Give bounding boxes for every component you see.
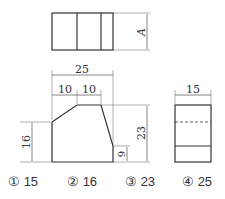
option-4[interactable]: ④ 25 xyxy=(182,174,212,189)
dim-seg-1: 10 xyxy=(58,83,72,96)
option-num: ③ xyxy=(125,174,137,189)
orthographic-drawing: 25 10 10 15 16 23 9 A xyxy=(0,0,225,199)
option-value: 25 xyxy=(198,174,212,189)
dim-right-height: 9 xyxy=(116,151,127,157)
option-value: 15 xyxy=(24,174,38,189)
option-1[interactable]: ① 15 xyxy=(8,174,38,189)
dim-width: 25 xyxy=(75,63,89,76)
option-num: ① xyxy=(8,174,20,189)
dim-side-width: 15 xyxy=(186,83,200,96)
dim-total-height: 23 xyxy=(135,126,148,140)
dim-seg-2: 10 xyxy=(82,83,96,96)
dim-label-a: A xyxy=(135,28,148,37)
option-num: ② xyxy=(67,174,79,189)
option-value: 23 xyxy=(141,174,155,189)
option-value: 16 xyxy=(83,174,97,189)
option-2[interactable]: ② 16 xyxy=(67,174,97,189)
option-3[interactable]: ③ 23 xyxy=(125,174,155,189)
dim-left-height: 16 xyxy=(20,135,33,149)
option-num: ④ xyxy=(182,174,194,189)
